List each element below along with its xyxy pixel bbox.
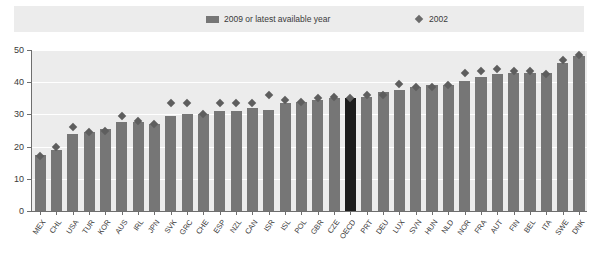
bar xyxy=(394,90,405,211)
x-axis-label-slot: FRA xyxy=(473,216,489,266)
bar-group xyxy=(522,50,538,211)
legend-item-2002: 2002 xyxy=(414,14,448,24)
legend-label-2009: 2009 or latest available year xyxy=(224,14,330,24)
x-axis-tick xyxy=(489,211,505,215)
x-axis-label-slot: GRC xyxy=(179,216,195,266)
bar-group xyxy=(375,50,391,211)
x-axis-ticks xyxy=(32,211,587,215)
bar-group xyxy=(555,50,571,211)
x-axis-label-slot: SVN xyxy=(408,216,424,266)
bar-group xyxy=(228,50,244,211)
bar xyxy=(198,114,209,211)
bar-group xyxy=(424,50,440,211)
x-axis-tick xyxy=(293,211,309,215)
x-axis-label-slot: OECD xyxy=(342,216,358,266)
x-axis-tick-label: CHE xyxy=(195,218,211,236)
x-axis-tick xyxy=(473,211,489,215)
x-axis-tick xyxy=(179,211,195,215)
legend-item-2009: 2009 or latest available year xyxy=(206,14,330,24)
x-axis-label-slot: ISR xyxy=(261,216,277,266)
bar-group xyxy=(97,50,113,211)
data-point-marker xyxy=(232,99,240,107)
x-axis-tick xyxy=(244,211,260,215)
x-axis-label-slot: IRL xyxy=(130,216,146,266)
x-axis-tick xyxy=(326,211,342,215)
bar-group xyxy=(179,50,195,211)
bar-group xyxy=(163,50,179,211)
x-axis-label-slot: ITA xyxy=(538,216,554,266)
bar xyxy=(280,103,291,211)
x-axis-tick xyxy=(522,211,538,215)
y-axis-tick-label: 0 xyxy=(2,206,24,216)
x-axis-tick xyxy=(538,211,554,215)
bar xyxy=(149,124,160,211)
x-axis-tick-label: CHL xyxy=(48,218,64,235)
data-point-marker xyxy=(248,99,256,107)
bar-group xyxy=(473,50,489,211)
data-point-marker xyxy=(493,65,501,73)
bar-group xyxy=(440,50,456,211)
diamond-marker-icon xyxy=(415,15,423,23)
bar xyxy=(459,81,470,211)
bar xyxy=(182,114,193,211)
x-axis-label-slot: NZL xyxy=(228,216,244,266)
bar xyxy=(296,102,307,211)
bar xyxy=(426,85,437,211)
x-axis-label-slot: SWE xyxy=(555,216,571,266)
x-axis-tick-label: SVN xyxy=(407,218,423,236)
x-axis-tick-label: AUS xyxy=(113,218,129,236)
data-point-marker xyxy=(477,67,485,75)
x-axis-tick-label: KOR xyxy=(96,218,113,236)
bar-highlight xyxy=(345,98,356,211)
data-point-marker xyxy=(216,99,224,107)
x-axis-tick xyxy=(277,211,293,215)
x-axis-label-slot: TUR xyxy=(81,216,97,266)
x-axis-tick xyxy=(440,211,456,215)
x-axis-tick xyxy=(424,211,440,215)
chart-legend: 2009 or latest available year 2002 xyxy=(14,6,584,32)
x-axis-label-slot: DEU xyxy=(375,216,391,266)
x-axis-label-slot: GBR xyxy=(310,216,326,266)
data-point-marker xyxy=(167,99,175,107)
data-point-marker xyxy=(183,99,191,107)
bar xyxy=(524,73,535,211)
x-axis-tick xyxy=(408,211,424,215)
x-axis-tick xyxy=(65,211,81,215)
x-axis-label-slot: KOR xyxy=(97,216,113,266)
bar xyxy=(361,97,372,211)
x-axis-tick-label: SVK xyxy=(162,218,178,235)
x-axis-label-slot: AUS xyxy=(114,216,130,266)
x-axis-tick-label: BEL xyxy=(522,218,537,235)
bar-group xyxy=(326,50,342,211)
bar xyxy=(312,100,323,211)
x-axis-label-slot: NLD xyxy=(440,216,456,266)
x-axis-tick-label: GRC xyxy=(178,218,195,237)
x-axis-label-slot: PRT xyxy=(359,216,375,266)
x-axis-tick xyxy=(571,211,587,215)
bar xyxy=(557,63,568,211)
x-axis-tick-label: NLD xyxy=(440,218,456,235)
x-axis-tick xyxy=(32,211,48,215)
y-axis-line xyxy=(31,50,32,211)
bar xyxy=(35,155,46,211)
bar-group xyxy=(359,50,375,211)
x-axis-labels: MEXCHLUSATURKORAUSIRLJPNSVKGRCCHEESPNZLC… xyxy=(32,216,587,266)
bar xyxy=(165,116,176,211)
x-axis-tick-label: AUT xyxy=(489,218,505,235)
bar xyxy=(133,122,144,211)
x-axis-label-slot: CHL xyxy=(48,216,64,266)
x-axis-label-slot: POL xyxy=(293,216,309,266)
x-axis-tick-label: DNK xyxy=(570,218,586,236)
bar xyxy=(573,56,584,211)
x-axis-label-slot: NOR xyxy=(457,216,473,266)
bar-group xyxy=(48,50,64,211)
bar xyxy=(475,77,486,211)
x-axis-tick xyxy=(228,211,244,215)
x-axis-label-slot: CZE xyxy=(326,216,342,266)
x-axis-tick xyxy=(212,211,228,215)
x-axis-tick-label: FIN xyxy=(507,218,521,233)
bar-group xyxy=(65,50,81,211)
x-axis-label-slot: LUX xyxy=(391,216,407,266)
bar-group xyxy=(489,50,505,211)
x-axis-tick-label: DEU xyxy=(374,218,390,236)
